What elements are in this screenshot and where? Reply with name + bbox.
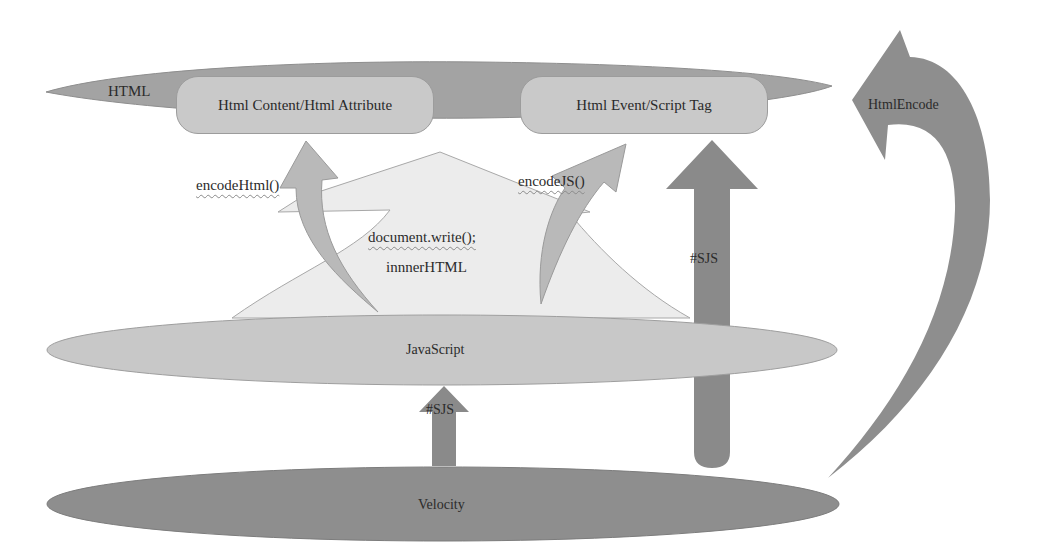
html-content-attribute-label: Html Content/Html Attribute (218, 97, 392, 114)
encode-js-label: encodeJS() (518, 172, 585, 190)
sjs-to-html-label: #SJS (690, 250, 718, 268)
diagram-canvas (0, 0, 1045, 558)
sjs-to-html-arrow (666, 140, 758, 468)
html-content-attribute-context: Html Content/Html Attribute (176, 76, 434, 134)
velocity-layer-label: Velocity (418, 496, 465, 514)
sjs-to-js-arrow (419, 386, 469, 466)
sink-innerhtml-label: innnerHTML (386, 258, 467, 276)
html-encode-label: HtmlEncode (868, 96, 939, 114)
html-event-script-label: Html Event/Script Tag (576, 97, 711, 114)
html-event-script-context: Html Event/Script Tag (520, 76, 768, 134)
html-layer-label: HTML (108, 82, 151, 100)
sjs-to-js-label: #SJS (426, 401, 454, 419)
sink-document-write-label: document.write(); (368, 228, 476, 246)
javascript-layer-label: JavaScript (406, 341, 464, 359)
encode-html-label: encodeHtml() (196, 176, 279, 194)
